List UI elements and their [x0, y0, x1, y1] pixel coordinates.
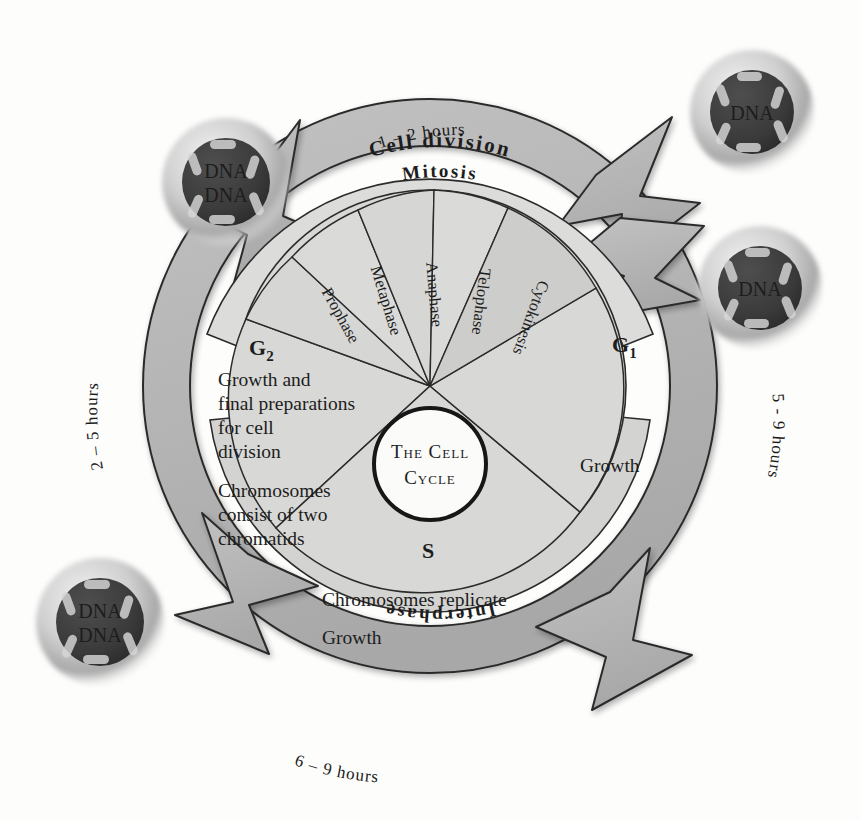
center-title-line-1: The Cell [391, 441, 469, 462]
cell-daughter-top-right: DNA [690, 50, 814, 174]
mitosis-label: Mitosis [401, 160, 480, 184]
g2-line-3: division [218, 441, 281, 462]
cell-daughter-right: DNA [698, 226, 822, 350]
cell-cycle-diagram: Cell division Mitosis Interphase 1 – 2 h… [0, 0, 860, 821]
g2-line2-0: Chromosomes [218, 480, 331, 501]
cell-label-line-1: DNA [204, 160, 248, 182]
cell-label-line-1: DNA [78, 600, 122, 622]
s-line-1: Growth [322, 627, 382, 648]
center-hub [374, 408, 486, 520]
cell-cycle-figure: Cell division Mitosis Interphase 1 – 2 h… [0, 0, 860, 821]
cell-label-line-1: DNA [738, 278, 782, 300]
g2-line2-1: consist of two [218, 504, 327, 525]
g1-line-0: Growth [580, 455, 640, 476]
cell-parent-top-left: DNA DNA [162, 118, 290, 246]
s-heading: S [422, 538, 434, 563]
g2-line-1: final preparations [218, 393, 355, 414]
center-title-line-2: Cycle [404, 467, 456, 488]
cell-label-line-2: DNA [204, 184, 248, 206]
s-line-0: Chromosomes replicate [322, 589, 507, 610]
g2-line2-2: chromatids [218, 528, 305, 549]
g2-line-0: Growth and [218, 369, 311, 390]
cell-parent-bottom-left: DNA DNA [36, 558, 164, 686]
cell-label-line-1: DNA [730, 102, 774, 124]
g2-line-2: for cell [218, 417, 274, 438]
cell-label-line-2: DNA [78, 624, 122, 646]
